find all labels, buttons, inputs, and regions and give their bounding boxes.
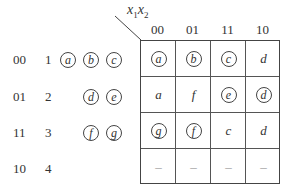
cell-r10-c11: – (211, 149, 246, 185)
state-f: f (83, 125, 99, 141)
state-e: e (106, 89, 122, 105)
corner-variable-label: x1x2 (127, 2, 148, 23)
cell-r00-c10: d (246, 41, 281, 77)
cell-r00-c00: a (141, 41, 176, 77)
col-header-10: 10 (245, 22, 280, 38)
cell-r11-c11: c (211, 113, 246, 149)
state-d: d (83, 89, 99, 105)
cell-r01-c10: d (246, 77, 281, 113)
cell-r01-c11: e (211, 77, 246, 113)
cell-r00-c01: b (176, 41, 211, 77)
cell-r01-c00: a (141, 77, 176, 113)
row-number-2: 2 (45, 89, 52, 105)
cell-r10-c01: – (176, 149, 211, 185)
col-header-11: 11 (210, 22, 245, 38)
state-a: a (60, 52, 76, 68)
cell-r00-c11: c (211, 41, 246, 77)
col-header-01: 01 (175, 22, 210, 38)
cell-r10-c00: – (141, 149, 176, 185)
row-states-3: f g (83, 125, 122, 141)
state-b: b (83, 52, 99, 68)
row-header-10: 10 (13, 161, 26, 177)
row-states-2: d e (83, 89, 122, 105)
row-number-1: 1 (45, 52, 52, 68)
cell-r11-c01: f (176, 113, 211, 149)
row-header-00: 00 (13, 52, 26, 68)
row-states-1: a b c (60, 52, 122, 68)
cell-r01-c01: f (176, 77, 211, 113)
row-number-4: 4 (45, 161, 52, 177)
col-header-00: 00 (140, 22, 175, 38)
state-g: g (106, 125, 122, 141)
flow-table-grid: a b c d a f e d g f c d – – – – (140, 40, 280, 184)
row-header-01: 01 (13, 89, 26, 105)
row-header-11: 11 (13, 125, 26, 141)
row-number-3: 3 (45, 125, 52, 141)
cell-r10-c10: – (246, 149, 281, 185)
cell-r11-c00: g (141, 113, 176, 149)
state-c: c (106, 52, 122, 68)
cell-r11-c10: d (246, 113, 281, 149)
